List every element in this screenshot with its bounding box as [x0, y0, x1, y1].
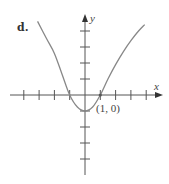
point-marker	[99, 93, 102, 96]
curve-line	[38, 21, 145, 111]
graph-plot	[0, 0, 169, 184]
axes	[10, 14, 163, 175]
